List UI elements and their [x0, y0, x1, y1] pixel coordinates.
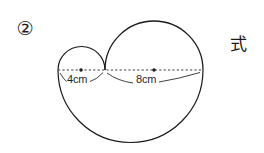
figure-drawing: [0, 0, 264, 153]
large-circle-center-dot: [152, 68, 155, 71]
large-upper-semicircle-path: [105, 21, 203, 70]
small-upper-semicircle-path: [58, 47, 105, 70]
dimension-label-small-circle: 4cm: [67, 73, 87, 85]
dimension-tick-small-right: [90, 73, 103, 82]
dimension-tick-large-left: [107, 73, 133, 83]
dimension-label-large-circle: 8cm: [136, 73, 156, 85]
dimension-tick-large-right: [159, 73, 200, 83]
small-circle-center-dot: [79, 68, 82, 71]
geometry-figure: ② 4cm 8cm 式: [0, 0, 264, 153]
dimension-tick-small-left: [60, 73, 67, 82]
formula-label: 式: [230, 30, 247, 55]
